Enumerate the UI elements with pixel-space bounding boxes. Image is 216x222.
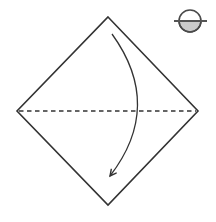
origami-diagram [0, 0, 216, 222]
origami-diagram-canvas [0, 0, 216, 222]
